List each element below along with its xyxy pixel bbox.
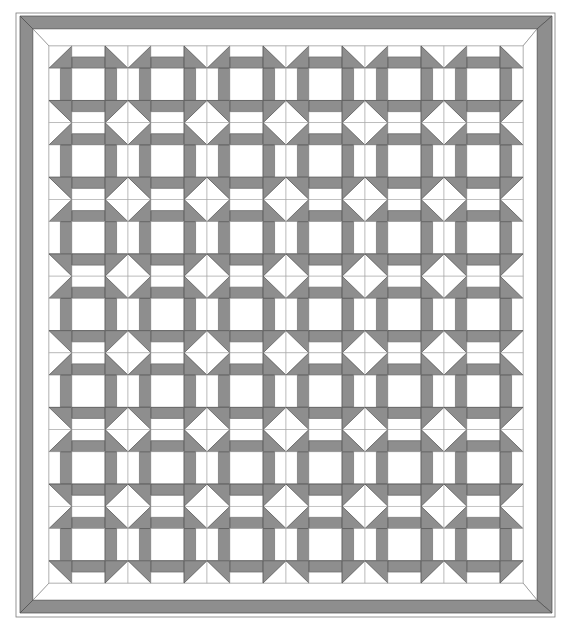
gray-bar-piece [388, 211, 421, 222]
gray-bar-piece [467, 331, 500, 342]
quilt-block [286, 506, 365, 583]
quilt-block [286, 199, 365, 276]
quilt-cell [467, 529, 500, 561]
quilt-block [286, 46, 365, 123]
quilt-block [207, 123, 286, 200]
quilt-block [128, 46, 207, 123]
gray-bar-piece [230, 57, 263, 68]
gray-bar-piece [218, 452, 229, 484]
gray-bar-piece [455, 222, 466, 254]
gray-bar-piece [376, 375, 387, 407]
gray-bar-piece [388, 484, 421, 495]
gray-bar-piece [218, 529, 229, 561]
quilt-block [286, 353, 365, 430]
quilt-block [207, 353, 286, 430]
quilt-block-grid [49, 46, 523, 583]
gray-bar-piece [139, 222, 150, 254]
gray-bar-piece [139, 145, 150, 177]
gray-bar-piece [388, 100, 421, 111]
quilt-cell [309, 529, 342, 561]
quilt-block [49, 199, 128, 276]
gray-bar-piece [151, 177, 184, 188]
quilt-block [207, 430, 286, 507]
gray-bar-piece [151, 57, 184, 68]
quilt-block [49, 276, 128, 353]
gray-bar-piece [60, 529, 71, 561]
gray-bar-piece [151, 254, 184, 265]
gray-bar-piece [151, 331, 184, 342]
gray-bar-piece [151, 134, 184, 145]
quilt-block [128, 199, 207, 276]
quilt-cell [151, 452, 184, 484]
gray-bar-piece [467, 100, 500, 111]
quilt-cell [72, 222, 105, 254]
gray-bar-piece [263, 452, 274, 484]
quilt-block [128, 353, 207, 430]
gray-bar-piece [297, 529, 308, 561]
gray-bar-piece [309, 364, 342, 375]
gray-bar-piece [230, 407, 263, 418]
gray-bar-piece [72, 407, 105, 418]
gray-bar-piece [467, 517, 500, 528]
gray-bar-piece [151, 211, 184, 222]
gray-bar-piece [376, 298, 387, 330]
gray-bar-piece [297, 452, 308, 484]
gray-bar-piece [230, 211, 263, 222]
gray-bar-piece [309, 134, 342, 145]
gray-bar-piece [467, 484, 500, 495]
gray-bar-piece [467, 57, 500, 68]
quilt-block [444, 506, 523, 583]
gray-bar-piece [467, 134, 500, 145]
gray-bar-piece [139, 452, 150, 484]
gray-bar-piece [342, 68, 353, 100]
gray-bar-piece [500, 298, 511, 330]
gray-bar-piece [388, 57, 421, 68]
gray-bar-piece [60, 145, 71, 177]
gray-bar-piece [218, 145, 229, 177]
gray-bar-piece [105, 529, 116, 561]
gray-bar-piece [388, 177, 421, 188]
gray-bar-piece [230, 177, 263, 188]
gray-border-side [20, 600, 552, 613]
quilt-cell [151, 298, 184, 330]
quilt-cell [230, 529, 263, 561]
quilt-block [365, 506, 444, 583]
quilt-cell [230, 298, 263, 330]
quilt-block [49, 353, 128, 430]
quilt-cell [388, 452, 421, 484]
gray-bar-piece [151, 561, 184, 572]
gray-bar-piece [421, 68, 432, 100]
gray-bar-piece [467, 254, 500, 265]
quilt-cell [151, 222, 184, 254]
quilt-cell [309, 68, 342, 100]
gray-bar-piece [151, 484, 184, 495]
quilt-block [365, 123, 444, 200]
gray-bar-piece [72, 441, 105, 452]
quilt-block [444, 430, 523, 507]
gray-bar-piece [139, 298, 150, 330]
gray-bar-piece [467, 287, 500, 298]
quilt-cell [230, 222, 263, 254]
gray-bar-piece [151, 407, 184, 418]
gray-bar-piece [388, 517, 421, 528]
gray-bar-piece [184, 68, 195, 100]
quilt-block [128, 123, 207, 200]
gray-bar-piece [342, 145, 353, 177]
quilt-block [365, 276, 444, 353]
gray-bar-piece [342, 375, 353, 407]
quilt-block [49, 430, 128, 507]
quilt-cell [388, 145, 421, 177]
gray-bar-piece [421, 452, 432, 484]
gray-bar-piece [151, 441, 184, 452]
gray-border-side [20, 16, 33, 613]
gray-bar-piece [218, 298, 229, 330]
quilt-diagram [0, 0, 573, 637]
gray-bar-piece [230, 441, 263, 452]
quilt-block [207, 276, 286, 353]
gray-bar-piece [309, 100, 342, 111]
gray-bar-piece [309, 177, 342, 188]
white-border-side [33, 29, 537, 46]
quilt-cell [72, 452, 105, 484]
gray-bar-piece [151, 100, 184, 111]
gray-bar-piece [455, 68, 466, 100]
